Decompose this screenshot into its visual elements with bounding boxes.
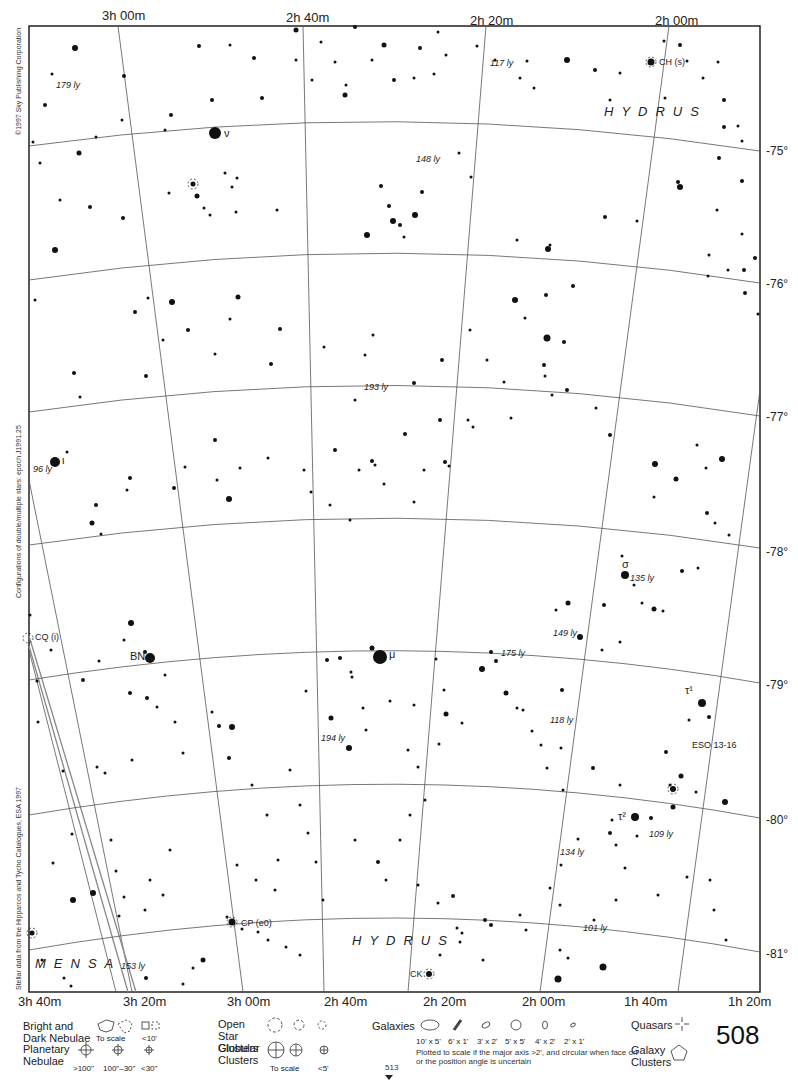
legend-galaxy-size-4: 4' x 2' [535, 1034, 555, 1048]
legend-galaxy-size-2: 3' x 2' [477, 1034, 497, 1048]
object-label: CP (e0) [241, 918, 272, 928]
nebulae-to-scale-label: To scale [96, 1034, 125, 1043]
galaxy-size-0: 10' x 5' [416, 1037, 441, 1046]
page-number: 508 [716, 1020, 759, 1051]
ra-label-bottom-1: 3h 20m [123, 994, 166, 1009]
galaxy-size-4: 4' x 2' [535, 1037, 555, 1046]
galaxy-size-1: 6' x 1' [448, 1037, 468, 1046]
legend-planetary-size-2: <30" [141, 1061, 157, 1075]
object-label: ESO 13-16 [692, 740, 737, 750]
ra-label-bottom-3: 2h 40m [324, 994, 367, 1009]
distance-label: 193 ly [364, 382, 389, 392]
galaxy-size-3: 5' x 5' [505, 1037, 525, 1046]
legend-planetary-nebulae: Planetary Nebulae [23, 1043, 78, 1067]
star-label: ν [224, 127, 230, 139]
dec-label-81: -81° [766, 947, 788, 961]
legend-globular-clusters: Globular Clusters [218, 1042, 268, 1066]
constellation-hydrus-top: HYDRUS [604, 104, 707, 119]
nebulae-small-label: <10' [142, 1034, 157, 1043]
distance-label: 101 ly [583, 923, 608, 933]
object-label: CQ (i) [35, 632, 59, 642]
object-label: CH (s) [659, 57, 685, 67]
galaxy-size-5: 2' x 1' [564, 1037, 584, 1046]
dec-label-77: -77° [766, 410, 788, 424]
constellation-mensa: MENSA [35, 956, 121, 971]
ra-label-bottom-0: 3h 40m [18, 994, 61, 1009]
next-page-reference[interactable]: 513 [385, 1063, 398, 1072]
star-label: μ [389, 648, 395, 660]
star-label: BN [130, 650, 145, 662]
copyright-text: ©1997 Sky Publishing Corporation [15, 28, 22, 135]
distance-label: 117 ly [490, 58, 514, 68]
ra-label-top-2: 2h 20m [470, 13, 513, 28]
constellation-boundary [29, 636, 136, 992]
planetary-size-small: <30" [141, 1064, 157, 1073]
distance-label: 153 ly [121, 961, 146, 971]
galaxy-size-2: 3' x 2' [477, 1037, 497, 1046]
planetary-size-medium: 100"–30" [103, 1064, 135, 1073]
distance-label: 109 ly [649, 829, 674, 839]
star-chart-map: HYDRUS HYDRUS MENSA νιμστ¹τ²BN179 ly117 … [0, 0, 798, 1083]
legend-bright-dark-nebulae: Bright and Dark Nebulae [23, 1020, 95, 1044]
ra-label-top-1: 2h 40m [286, 10, 329, 25]
ra-label-bottom-2: 3h 00m [227, 994, 270, 1009]
legend-galaxy-size-0: 10' x 5' [416, 1034, 441, 1048]
globular-small-label: <5' [318, 1064, 329, 1073]
ra-label-top-0: 3h 00m [102, 8, 145, 23]
object-label: CK [410, 969, 423, 979]
distance-label: 118 ly [550, 715, 574, 725]
distance-label: 149 ly [553, 628, 578, 638]
dec-label-75: -75° [766, 144, 788, 158]
star-label: τ² [618, 810, 626, 822]
legend-planetary-size-1: 100"–30" [103, 1061, 135, 1075]
data-source-text: Stellar data from the Hipparcos and Tych… [15, 787, 22, 990]
legend-quasars: Quasars [631, 1019, 673, 1031]
next-page-arrow-icon[interactable] [385, 1075, 393, 1080]
globular-to-scale-label: To scale [270, 1064, 299, 1073]
distance-label: 96 ly [33, 464, 53, 474]
legend-globular-small: <5' [318, 1061, 329, 1075]
distance-label: 134 ly [560, 847, 585, 857]
distance-label: 135 ly [630, 573, 655, 583]
distance-label: 194 ly [321, 733, 346, 743]
legend-galaxies: Galaxies [372, 1020, 415, 1032]
dec-label-76: -76° [766, 277, 788, 291]
ra-label-bottom-7: 1h 20m [728, 994, 771, 1009]
legend-galaxy-size-5: 2' x 1' [564, 1034, 584, 1048]
dec-grid-lines [29, 122, 760, 952]
dec-label-80: -80° [766, 813, 788, 827]
galaxy-plot-note: Plotted to scale if the major axis >2', … [416, 1048, 646, 1066]
epoch-note-text: Configurations of double/multiple stars:… [15, 425, 22, 598]
legend-globular-to-scale: To scale [270, 1061, 299, 1075]
distance-label: 175 ly [501, 648, 526, 658]
legend-planetary-size-0: >100" [73, 1061, 94, 1075]
distance-label: 179 ly [56, 80, 81, 90]
star-label: σ [622, 558, 629, 570]
chart-frame [29, 26, 760, 992]
ra-label-bottom-4: 2h 20m [423, 994, 466, 1009]
constellation-hydrus-bottom: HYDRUS [352, 933, 455, 948]
legend-galaxy-size-3: 5' x 5' [505, 1034, 525, 1048]
legend-galaxy-size-1: 6' x 1' [448, 1034, 468, 1048]
star-label: ι [62, 454, 65, 466]
ra-label-bottom-6: 1h 40m [624, 994, 667, 1009]
dec-label-79: -79° [766, 678, 788, 692]
ra-label-top-3: 2h 00m [655, 13, 698, 28]
ra-grid-lines [29, 26, 760, 992]
legend-nebulae-to-scale: To scale [96, 1031, 125, 1045]
stars [23, 25, 760, 988]
legend-galaxy-clusters: Galaxy Clusters [631, 1044, 671, 1068]
dec-label-78: -78° [766, 545, 788, 559]
star-label: τ¹ [685, 684, 693, 696]
distance-label: 148 ly [416, 154, 441, 164]
planetary-size-large: >100" [73, 1064, 94, 1073]
ra-label-bottom-5: 2h 00m [522, 994, 565, 1009]
legend-nebulae-small: <10' [142, 1031, 157, 1045]
